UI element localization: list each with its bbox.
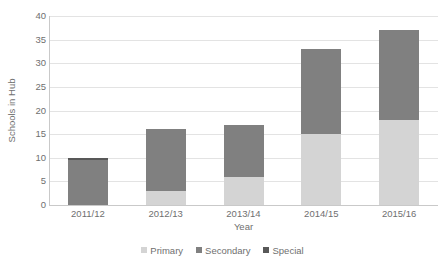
y-axis-tick-label: 40 [18,11,46,21]
legend-swatch-icon [196,247,202,253]
x-axis-tick-label: 2014/15 [282,208,360,220]
x-axis-title: Year [49,221,438,233]
bar-group[interactable] [68,16,108,205]
x-axis-tick-label: 2012/13 [127,208,205,220]
legend-item-secondary[interactable]: Secondary [196,245,250,256]
bar-segment-secondary[interactable] [379,30,419,120]
x-axis-tick-label: 2015/16 [360,208,438,220]
bar-group[interactable] [146,16,186,205]
y-axis-tick-label: 30 [18,58,46,68]
x-axis-tick-label: 2011/12 [49,208,127,220]
bar-stack [68,158,108,205]
legend-label: Special [272,245,303,256]
bar-stack [301,49,341,205]
y-axis-tick-label: 25 [18,82,46,92]
legend-label: Secondary [205,245,250,256]
x-axis-tick-labels: 2011/122012/132013/142014/152015/16 [49,208,438,222]
bar-stack [224,125,264,205]
chart-legend: PrimarySecondarySpecial [0,243,445,257]
legend-swatch-icon [263,247,269,253]
bar-group[interactable] [301,16,341,205]
bar-series-container [49,16,438,205]
bar-stack [146,129,186,205]
x-axis-baseline [49,205,438,206]
y-axis-tick-label: 35 [18,35,46,45]
bar-segment-primary[interactable] [301,134,341,205]
y-axis-tick-label: 10 [18,153,46,163]
x-axis-tick-label: 2013/14 [205,208,283,220]
bar-segment-secondary[interactable] [301,49,341,134]
bar-segment-primary[interactable] [224,177,264,205]
y-axis-tick-label: 5 [18,176,46,186]
stacked-bar-chart: Schools in Hub 0510152025303540 2011/122… [0,0,445,269]
y-axis-tick-label: 15 [18,129,46,139]
legend-item-primary[interactable]: Primary [141,245,183,256]
legend-item-special[interactable]: Special [263,245,303,256]
bar-segment-secondary[interactable] [224,125,264,177]
y-axis-tick-labels: 0510152025303540 [18,16,46,205]
bar-segment-primary[interactable] [146,191,186,205]
bar-segment-secondary[interactable] [68,160,108,205]
bar-segment-primary[interactable] [379,120,419,205]
bar-stack [379,30,419,205]
y-axis-tick-label: 20 [18,106,46,116]
bar-group[interactable] [379,16,419,205]
plot-area [49,16,438,205]
y-axis-tick-label: 0 [18,200,46,210]
bar-group[interactable] [224,16,264,205]
legend-swatch-icon [141,247,147,253]
legend-label: Primary [150,245,183,256]
bar-segment-secondary[interactable] [146,129,186,190]
